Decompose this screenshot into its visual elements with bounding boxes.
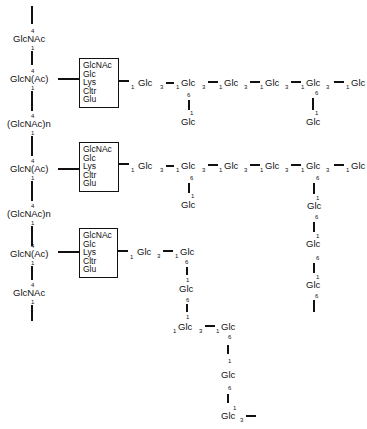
bond-line [31, 305, 33, 321]
sugar-glc: Glc [265, 161, 279, 171]
link-number: 6 [185, 259, 188, 265]
link-number: 6 [316, 255, 319, 261]
sugar-glc: Glc [221, 411, 235, 421]
sugar-glc: Glc [180, 247, 194, 257]
link-number: 3 [240, 417, 243, 423]
sugar-glc-pendant: Glc [307, 201, 321, 211]
linker-box: GlcNAc Glc Lys Cltr Glu [79, 228, 118, 278]
link-number: 1 [219, 84, 222, 90]
sugar-glc: Glc [138, 161, 152, 171]
link-number: 3 [326, 167, 329, 173]
sugar-glcnac-n: (GlcNAc)n [7, 209, 51, 219]
sugar-glc: Glc [351, 161, 365, 171]
link-number: 3 [160, 167, 163, 173]
sugar-glcnac-unit: GlcN(Ac) [10, 74, 49, 84]
bond-line [312, 98, 314, 110]
bond-line [313, 222, 315, 232]
bond-line [250, 81, 260, 83]
link-number: 1 [176, 84, 179, 90]
bond-line [163, 250, 173, 252]
bond-line [313, 263, 315, 273]
sugar-glc: Glc [181, 78, 195, 88]
link-number: 3 [244, 84, 247, 90]
link-number: 3 [326, 84, 329, 90]
bond-line [58, 78, 79, 80]
link-number: 6 [187, 92, 190, 98]
link-number: 3 [285, 167, 288, 173]
link-number: 1 [130, 254, 133, 260]
sugar-glc: Glc [265, 78, 279, 88]
bond-line [188, 183, 190, 193]
sugar-glc: Glc [181, 161, 195, 171]
sugar-glc: Glc [306, 78, 320, 88]
sugar-glc: Glc [138, 78, 152, 88]
bond-line [31, 181, 33, 201]
bond-line [31, 51, 33, 65]
bond-line [313, 183, 315, 194]
bond-line [291, 164, 301, 166]
link-number: 1 [260, 84, 263, 90]
link-number: 1 [346, 84, 349, 90]
link-number: 1 [186, 314, 189, 320]
linker-glcnac: GlcNAc [80, 143, 118, 154]
bond-line [118, 250, 128, 252]
bond-line [166, 82, 174, 84]
bond-line [58, 251, 79, 253]
sugar-glc: Glc [306, 161, 320, 171]
bond-line [31, 6, 33, 24]
bond-line [119, 163, 129, 165]
link-number: 1 [216, 328, 219, 334]
bond-line [31, 91, 33, 111]
link-number: 6 [228, 334, 231, 340]
link-number: 1 [131, 167, 134, 173]
bond-line [58, 168, 79, 170]
bond-line [291, 81, 301, 83]
sugar-glc: Glc [221, 322, 235, 332]
sugar-glc: Glc [224, 78, 238, 88]
bond-line [166, 165, 174, 167]
bond-line [119, 80, 129, 82]
link-number: 1 [131, 84, 134, 90]
bond-line [208, 81, 218, 83]
link-number: 1 [228, 358, 231, 364]
linker-glu: Glu [80, 265, 117, 274]
link-number: 6 [315, 90, 318, 96]
bond-line [227, 394, 229, 403]
bond-line [31, 266, 33, 280]
bond-line [186, 304, 188, 312]
bond-line [188, 100, 190, 110]
bond-line [334, 81, 344, 83]
link-number: 3 [202, 84, 205, 90]
link-number: 1 [301, 167, 304, 173]
bond-line [205, 325, 215, 327]
link-number: 3 [285, 84, 288, 90]
link-number: 6 [315, 214, 318, 220]
bond-line [246, 415, 256, 417]
bond-line [227, 345, 229, 354]
sugar-glc-pendant: Glc [306, 239, 320, 249]
sugar-glc-branch: Glc [306, 117, 320, 127]
linker-glu: Glu [80, 95, 118, 104]
sugar-glc: Glc [178, 322, 192, 332]
link-number: 1 [346, 167, 349, 173]
sugar-glcnac: GlcNAc [13, 288, 45, 298]
sugar-glcnac: GlcNAc [13, 34, 45, 44]
sugar-glc: Glc [221, 370, 235, 380]
link-number: 3 [157, 253, 160, 259]
link-number: 3 [244, 167, 247, 173]
bond-line [250, 164, 260, 166]
bond-line [208, 164, 218, 166]
link-number: 6 [186, 297, 189, 303]
link-number: 3 [199, 328, 202, 334]
sugar-glc-branch: Glc [181, 200, 195, 210]
linker-glcnac: GlcNAc [80, 59, 118, 70]
link-number: 6 [315, 293, 318, 299]
link-number: 3 [202, 167, 205, 173]
link-number: 1 [301, 84, 304, 90]
linker-box: GlcNAc Glc Lys Cltr Glu [79, 58, 119, 108]
bond-line [186, 267, 188, 275]
link-number: 1 [219, 167, 222, 173]
bond-line [31, 136, 33, 156]
bond-line [313, 300, 315, 312]
bond-line [334, 164, 344, 166]
